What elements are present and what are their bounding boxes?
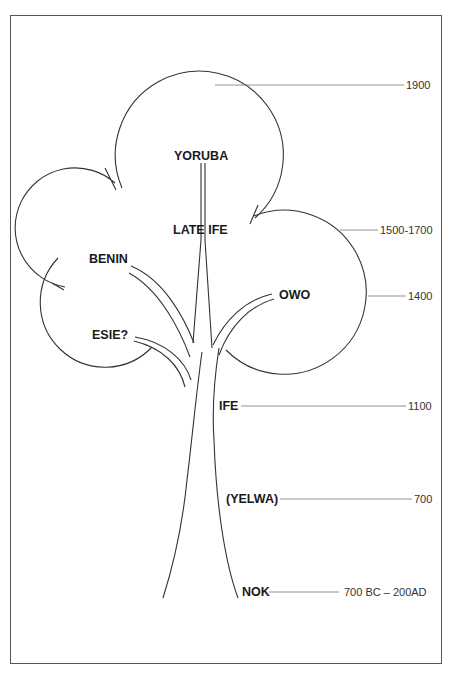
label-benin: BENIN	[89, 253, 128, 266]
label-late-ife: LATE IFE	[173, 224, 228, 237]
label-esie: ESIE?	[92, 329, 128, 342]
esie-canopy	[40, 258, 152, 367]
label-owo: OWO	[279, 289, 310, 302]
date-1500-1700: 1500-1700	[380, 225, 433, 236]
label-yelwa: (YELWA)	[226, 493, 278, 506]
trunk-left	[163, 352, 202, 598]
label-yoruba: YORUBA	[174, 150, 228, 163]
date-1100: 1100	[408, 401, 432, 412]
label-nok: NOK	[242, 586, 270, 599]
label-ife: IFE	[219, 400, 238, 413]
yoruba-canopy	[115, 71, 283, 218]
benin-canopy	[15, 168, 116, 287]
central-stem	[193, 163, 212, 348]
esie-branch	[134, 337, 191, 387]
date-700bc-200ad: 700 BC – 200AD	[344, 587, 427, 598]
tree-drawing	[0, 0, 453, 684]
date-1900: 1900	[406, 80, 430, 91]
owo-branch	[213, 294, 274, 355]
date-700: 700	[414, 494, 432, 505]
trunk-right	[213, 348, 238, 598]
date-1400: 1400	[408, 291, 432, 302]
benin-branch	[129, 266, 194, 357]
